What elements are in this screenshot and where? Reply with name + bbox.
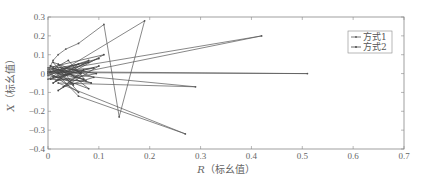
data-point	[57, 73, 59, 75]
x-tick-label: 0.1	[93, 151, 104, 161]
x-tick-label: 0.5	[297, 151, 309, 161]
y-tick-label: −0.3	[29, 125, 46, 135]
data-point	[65, 48, 67, 50]
y-tick-label: −0.4	[29, 144, 46, 154]
data-point	[57, 90, 59, 92]
data-point	[78, 43, 80, 45]
data-point	[98, 58, 100, 60]
legend-label-series-1: 方式1	[363, 31, 387, 42]
x-tick-label: 0.4	[246, 151, 258, 161]
data-point	[93, 67, 95, 69]
data-point	[195, 86, 197, 88]
data-point	[103, 24, 105, 26]
legend-marker-series-1	[355, 36, 357, 38]
data-point	[50, 71, 52, 73]
x-tick-label: 0.6	[348, 151, 360, 161]
data-point	[50, 78, 52, 80]
x-tick-label: 0	[46, 151, 51, 161]
y-tick-label: 0	[41, 69, 46, 79]
y-tick-label: 0.3	[34, 12, 46, 22]
data-point	[78, 63, 80, 65]
data-point	[88, 61, 90, 63]
data-point	[98, 65, 100, 67]
y-axis-title: X（标幺值）	[4, 54, 16, 112]
data-point	[78, 92, 80, 94]
data-point	[52, 60, 54, 62]
data-point	[52, 67, 54, 69]
data-point	[52, 82, 54, 84]
data-point	[95, 73, 97, 75]
data-point	[80, 73, 82, 75]
data-point	[88, 60, 90, 62]
data-point	[57, 63, 59, 65]
data-point	[67, 60, 69, 62]
x-tick-label: 0.2	[144, 151, 155, 161]
data-point	[52, 76, 54, 78]
data-point	[103, 54, 105, 56]
plot-lines	[47, 20, 308, 135]
y-tick-label: −0.1	[29, 87, 45, 97]
x-tick-label: 0.3	[195, 151, 207, 161]
legend-label-series-2: 方式2	[363, 41, 387, 52]
data-point	[90, 82, 92, 84]
data-point	[307, 73, 309, 75]
data-point	[55, 80, 57, 82]
legend: 方式1 方式2	[348, 31, 392, 53]
y-tick-label: 0.1	[34, 50, 45, 60]
data-point	[57, 82, 59, 84]
legend-marker-series-2	[355, 46, 357, 48]
data-point	[62, 86, 64, 88]
data-point	[57, 54, 59, 56]
data-point	[88, 88, 90, 90]
series-line-1	[48, 21, 307, 134]
data-point	[85, 80, 87, 82]
data-point	[50, 65, 52, 67]
y-tick-label: −0.2	[29, 106, 45, 116]
data-point	[93, 76, 95, 78]
data-point	[184, 133, 186, 135]
rx-trajectory-chart: 00.10.20.30.40.50.60.7 0.30.20.10−0.1−0.…	[0, 0, 421, 183]
data-point	[118, 116, 120, 118]
data-point	[73, 84, 75, 86]
x-axis-title: R（标幺值）	[196, 163, 255, 175]
data-point	[52, 61, 54, 63]
data-point	[261, 35, 263, 37]
x-tick-label: 0.7	[398, 151, 410, 161]
data-point	[78, 95, 80, 97]
data-point	[83, 69, 85, 71]
data-point	[144, 20, 146, 22]
data-point	[83, 78, 85, 80]
y-tick-label: 0.2	[34, 31, 45, 41]
